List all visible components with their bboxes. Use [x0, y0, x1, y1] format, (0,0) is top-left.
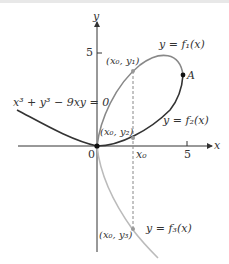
point-x0y1 — [131, 69, 135, 73]
point-A — [181, 73, 186, 78]
f3-label: y = f₃(x) — [145, 222, 192, 235]
point-A-label: A — [186, 69, 195, 82]
y-tick-label: 5 — [86, 46, 93, 59]
point-x0y1-label: (x₀, y₁) — [106, 55, 140, 66]
y-axis-label: y — [92, 10, 100, 23]
x0-label: x₀ — [136, 148, 147, 161]
x-tick-label: 5 — [184, 148, 191, 161]
point-x0y3-label: (x₀, y₃) — [99, 229, 133, 240]
curve-f3 — [97, 146, 158, 258]
equation-label: x³ + y³ − 9xy = 0 — [13, 96, 109, 109]
origin-label: 0 — [88, 148, 95, 161]
origin-point — [94, 143, 99, 148]
x-axis-label: x — [214, 139, 221, 152]
f1-label: y = f₁(x) — [158, 38, 205, 51]
f2-label: y = f₂(x) — [162, 114, 209, 127]
folium-diagram: y x 5 5 0 x₀ y = f₁(x) y = f₂(x) y = f₃(… — [0, 0, 229, 264]
point-x0y2-label: (x₀, y₂) — [100, 126, 134, 137]
